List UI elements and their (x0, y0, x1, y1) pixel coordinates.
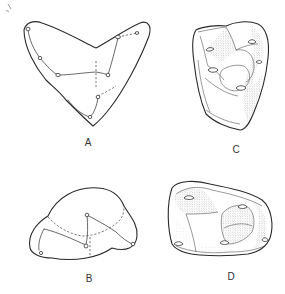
panel-label-c: C (232, 145, 239, 155)
panel-label-d: D (227, 272, 234, 282)
figure-canvas (0, 0, 285, 294)
panel-label-b: B (86, 274, 93, 284)
panel-a-drawing (24, 22, 150, 126)
panel-b-outline (29, 188, 137, 260)
panel-d-drawing (168, 181, 272, 255)
panel-c-drawing (193, 22, 269, 130)
panel-a-outline (24, 22, 150, 126)
panel-label-a: A (85, 138, 92, 148)
scan-artifact (6, 4, 11, 12)
tooth-figure: A C B D (0, 0, 285, 294)
panel-b-drawing (29, 188, 137, 260)
